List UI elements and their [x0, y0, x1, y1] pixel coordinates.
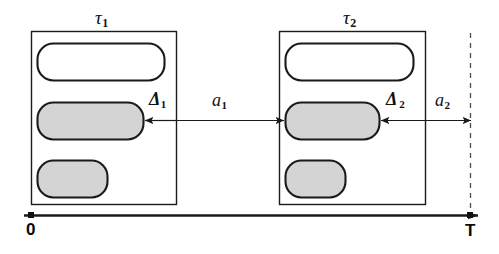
- a-2-symbol: a: [435, 90, 444, 110]
- delta-2-subscript: 2: [399, 98, 405, 110]
- delta-2-label: Δ2: [386, 90, 405, 110]
- frame-1-tau-label: τ1: [95, 8, 108, 29]
- bar-1-1-white-block: [38, 44, 165, 81]
- time-axis-tick-start: [28, 212, 34, 218]
- frame-2-tau-symbol: τ: [343, 7, 350, 28]
- bar-1-2-gray-block: [38, 103, 144, 140]
- axis-end-label: T: [465, 222, 475, 239]
- diagram-canvas: [0, 0, 499, 254]
- a-2-label: a2: [435, 91, 450, 111]
- frame-2-tau-label: τ2: [343, 8, 356, 29]
- frame-2-tau-subscript: 2: [350, 16, 356, 30]
- a-2-subscript: 2: [445, 99, 451, 111]
- frame-1-tau-subscript: 1: [102, 16, 108, 30]
- axis-start-label: 0: [26, 221, 35, 238]
- time-axis: [24, 212, 478, 218]
- a-1-subscript: 1: [222, 99, 228, 111]
- delta-1-symbol: Δ: [149, 89, 160, 109]
- a-1-symbol: a: [212, 90, 221, 110]
- diagram-root: τ1 τ2 Δ1 a1 Δ2 a2 0 T: [0, 0, 499, 254]
- delta-1-label: Δ1: [149, 90, 166, 110]
- bar-2-1-white-block: [286, 44, 414, 81]
- bar-2-2-gray-block: [286, 103, 380, 140]
- frame-1-tau-symbol: τ: [95, 7, 102, 28]
- delta-2-symbol: Δ: [386, 89, 397, 109]
- bar-1-3-gray-block: [38, 161, 108, 198]
- task-frame-2: [280, 32, 426, 205]
- task-frame-1: [32, 32, 177, 205]
- time-axis-tick-end: [467, 212, 473, 218]
- a-1-label: a1: [212, 91, 227, 111]
- bar-2-3-gray-block: [286, 161, 346, 198]
- delta-1-subscript: 1: [161, 98, 167, 110]
